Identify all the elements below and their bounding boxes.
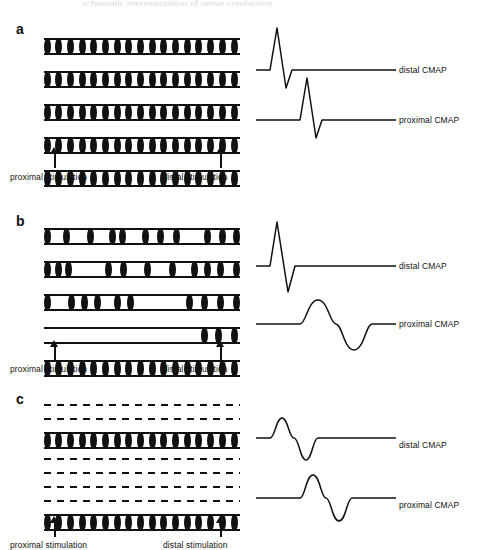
myelin-segment [204,228,211,245]
myelin-segment [79,71,86,88]
degenerated-axon-dashes [44,472,240,474]
myelin-segment [137,137,144,154]
myelin-segment [184,71,191,88]
panel-a-proximal-cmap-trace [256,72,396,182]
myelin-segment [102,71,109,88]
myelin-segment [81,294,88,311]
myelin-segment [137,170,144,187]
myelin-segment [127,294,134,311]
myelin-segment [137,38,144,55]
panel-a-proximal-cmap-label: proximal CMAP [399,115,459,125]
myelin-segment [231,38,238,55]
nerve-fiber-intact [44,432,240,449]
myelin-segment [137,104,144,121]
panel-c-distal-cmap-label: distal CMAP [399,440,447,450]
myelin-segment [204,261,211,278]
myelin-segment [172,38,179,55]
degenerated-axon-dashes [44,404,240,406]
panel-b-letter: b [16,214,25,228]
nerve-fiber-intact [44,514,240,531]
myelin-segment [149,432,156,449]
myelin-segment [231,432,238,449]
myelin-segment [102,137,109,154]
nerve-fiber-intact [44,104,240,121]
myelin-segment [231,360,238,377]
myelin-segment [149,514,156,531]
myelin-segment [114,170,121,187]
myelin-segment [149,137,156,154]
myelin-segment [102,514,109,531]
myelin-segment [184,514,191,531]
panel-b: b distal CMAP proximal CMAP proximal sti… [0,200,484,390]
axon-membrane-line [44,261,240,263]
myelin-segment [231,170,238,187]
myelin-segment [149,170,156,187]
myelin-segment [114,71,121,88]
panel-c-distal-stimulation-label: distal stimulation [163,540,228,550]
myelin-segment [114,432,121,449]
myelin-segment [231,514,238,531]
nerve-fiber-intact [44,71,240,88]
myelin-segment [173,228,180,245]
myelin-segment [67,137,74,154]
myelin-segment [44,104,51,121]
myelin-segment [217,294,224,311]
myelin-segment [67,38,74,55]
degenerated-axon-dashes [44,486,240,488]
myelin-segment [184,104,191,121]
panel-c-proximal-cmap-label: proximal CMAP [399,500,459,510]
myelin-segment [55,261,62,278]
myelin-segment [149,360,156,377]
myelin-segment [87,228,94,245]
nerve-fiber-intact [44,38,240,55]
panel-b-distal-cmap-label: distal CMAP [399,261,447,271]
myelin-segment [169,261,176,278]
panel-b-proximal-cmap-trace [256,276,396,386]
myelin-segment [219,228,226,245]
myelin-segment [172,71,179,88]
myelin-segment [217,261,224,278]
myelin-segment [119,228,126,245]
panel-a-distal-stimulation-label: distal stimulation [163,172,228,182]
panel-b-proximal-stimulation-label: proximal stimulation [10,364,87,374]
myelin-segment [67,432,74,449]
panel-c-letter: c [16,392,24,406]
myelin-segment [102,170,109,187]
myelin-segment [114,104,121,121]
myelin-segment [79,514,86,531]
myelin-segment [149,71,156,88]
myelin-segment [120,261,127,278]
nerve-conduction-figure: schematic representation of nerve conduc… [0,0,484,550]
axon-membrane-line [44,276,240,278]
myelin-segment [44,228,51,245]
myelin-segment [102,38,109,55]
myelin-segment [231,71,238,88]
myelin-segment [79,38,86,55]
nerve-fiber-intact [44,137,240,154]
myelin-segment [109,228,116,245]
myelin-segment [231,104,238,121]
myelin-segment [184,38,191,55]
nerve-fiber-demyelinated [44,228,240,245]
degenerated-axon-dashes [44,418,240,420]
panel-c: c distal CMAP proximal CMAP proximal sti… [0,390,484,550]
myelin-segment [44,71,51,88]
nerve-fiber-degenerated [44,418,240,420]
myelin-segment [67,104,74,121]
panel-c-nerve-bundle [44,404,240,540]
myelin-segment [172,432,179,449]
myelin-segment [67,71,74,88]
panel-a-distal-cmap-label: distal CMAP [399,65,447,75]
panel-b-proximal-cmap-label: proximal CMAP [399,319,459,329]
panel-c-proximal-cmap-trace [256,458,396,548]
myelin-segment [201,327,208,344]
myelin-segment [184,137,191,154]
myelin-segment [114,137,121,154]
nerve-fiber-degenerated [44,458,240,460]
nerve-fiber-degenerated [44,500,240,502]
myelin-segment [231,327,238,344]
myelin-segment [219,104,226,121]
myelin-segment [233,294,240,311]
nerve-fiber-degenerated [44,404,240,406]
myelin-segment [44,38,51,55]
